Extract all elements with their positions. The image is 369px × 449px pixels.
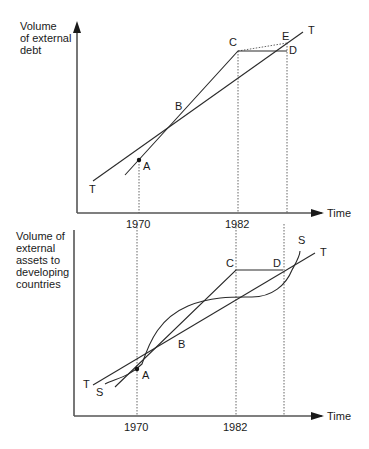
top-y-axis-arrow-icon: [73, 21, 81, 33]
top-label-e: E: [282, 30, 289, 42]
bottom-label-t-end: T: [320, 246, 327, 258]
top-trend-line-t: [93, 32, 303, 181]
bottom-x-axis-arrow-icon: [311, 412, 324, 420]
diagram-canvas: [0, 0, 369, 449]
top-y-axis-label-line: Volume: [20, 20, 71, 32]
bottom-y-axis-label-line: assets to: [16, 254, 69, 266]
bottom-trend-line-t: [93, 253, 315, 385]
bottom-y-axis-label-line: Volume of: [16, 230, 69, 242]
bottom-label-c: C: [226, 257, 234, 269]
top-label-t-start: T: [89, 183, 96, 195]
top-label-d: D: [289, 44, 297, 56]
bottom-label-b: B: [178, 338, 185, 350]
top-x-axis-arrow-icon: [311, 209, 324, 217]
bottom-y-axis-label-line: external: [16, 242, 69, 254]
top-label-c: C: [229, 36, 237, 48]
top-tick-1970: 1970: [126, 218, 150, 230]
bottom-label-s-end: S: [298, 234, 305, 246]
bottom-panel: [74, 224, 324, 420]
bottom-y-axis-label: Volume of external assets to developing …: [16, 230, 69, 290]
top-label-b: B: [175, 100, 182, 112]
top-label-a: A: [143, 160, 150, 172]
bottom-y-axis-label-line: developing: [16, 266, 69, 278]
top-panel: [73, 21, 324, 217]
bottom-tick-1982: 1982: [223, 421, 247, 433]
bottom-y-axis-label-line: countries: [16, 278, 69, 290]
bottom-label-s-start: S: [96, 386, 103, 398]
bottom-label-d: D: [273, 257, 281, 269]
top-path-abcd: [125, 51, 287, 175]
top-dotted-c-e: [238, 43, 287, 51]
bottom-s-curve: [105, 251, 300, 384]
bottom-label-a: A: [142, 369, 149, 381]
bottom-tick-1970: 1970: [124, 421, 148, 433]
bottom-x-axis-label: Time: [327, 410, 351, 422]
top-y-axis-label-line: debt: [20, 44, 71, 56]
bottom-label-t-start: T: [83, 378, 90, 390]
top-x-axis-label: Time: [327, 207, 351, 219]
top-label-t-end: T: [308, 24, 315, 36]
top-y-axis-label-line: of external: [20, 32, 71, 44]
bottom-point-a-dot: [135, 367, 139, 371]
top-point-a-dot: [137, 158, 141, 162]
top-tick-1982: 1982: [225, 218, 249, 230]
top-y-axis-label: Volume of external debt: [20, 20, 71, 56]
